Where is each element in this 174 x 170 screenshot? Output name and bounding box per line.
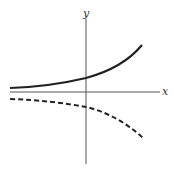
- graph: x y: [0, 0, 174, 170]
- x-axis-label: x: [162, 85, 169, 98]
- y-axis-label: y: [82, 7, 90, 20]
- dashed-curve: [10, 99, 143, 138]
- solid-curve: [10, 45, 142, 88]
